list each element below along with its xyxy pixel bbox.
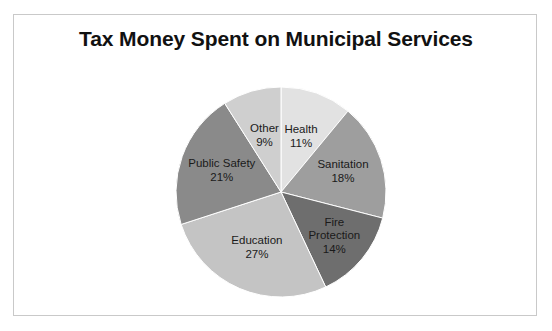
chart-title: Tax Money Spent on Municipal Services [0,27,552,51]
pie-chart: Health11%Sanitation18%Fire Protection14%… [175,86,387,298]
chart-figure: Tax Money Spent on Municipal Services He… [0,0,552,331]
pie-chart-svg [175,86,387,298]
